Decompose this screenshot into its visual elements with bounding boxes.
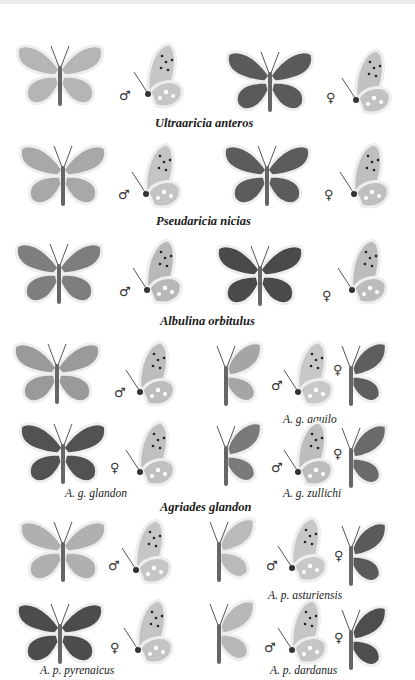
butterfly-asturiensis-male-upperside (208, 516, 263, 588)
species-label-pseudaricia-nicias: Pseudaricia nicias (156, 214, 251, 229)
butterfly-male-upperside (18, 140, 113, 212)
butterfly-female-underside (118, 598, 178, 670)
butterfly-female-upperside (18, 418, 108, 486)
butterfly-female-upperside (15, 598, 107, 668)
species-label-albulina-orbitulus: Albulina orbitulus (160, 314, 255, 329)
butterfly-aquilo-male-upperside (215, 340, 267, 412)
butterfly-male-underside (120, 340, 180, 412)
butterfly-male-upperside (18, 516, 110, 586)
butterfly-zullichi-male-upperside (215, 420, 267, 492)
subspecies-label-glandon: A. g. glandon (65, 487, 127, 499)
butterfly-asturiensis-female-upperside (340, 520, 392, 592)
butterfly-male-underside (127, 238, 187, 310)
female-symbol: ♀ (324, 187, 334, 202)
butterfly-male-upperside (12, 338, 112, 410)
female-symbol: ♀ (322, 288, 332, 303)
butterfly-male-underside (116, 518, 176, 590)
female-symbol: ♀ (110, 460, 120, 475)
species-label-agriades-glandon: Agriades glandon (160, 500, 251, 515)
butterfly-male-upperside (14, 238, 114, 312)
butterfly-male-upperside (15, 40, 110, 112)
butterfly-female-upperside (215, 240, 315, 314)
butterfly-aquilo-male-underside (278, 340, 338, 412)
butterfly-female-underside (120, 420, 180, 492)
butterfly-zullichi-female-upperside (340, 422, 392, 494)
species-label-ultraaricia-anteros: Ultraaricia anteros (155, 116, 253, 131)
butterfly-dardanus-male-underside (272, 598, 332, 670)
butterfly-female-upperside (225, 46, 320, 118)
subspecies-label-pyrenaicus: A. p. pyrenaicus (40, 664, 114, 676)
subspecies-label-zullichi: A. g. zullichi (283, 487, 341, 499)
page-top-edge (0, 0, 415, 4)
butterfly-dardanus-male-upperside (208, 598, 263, 670)
female-symbol: ♀ (326, 90, 336, 105)
butterfly-male-underside (126, 142, 186, 214)
butterfly-dardanus-female-upperside (340, 604, 392, 676)
butterfly-female-underside (334, 142, 394, 214)
butterfly-zullichi-male-underside (278, 420, 338, 492)
butterfly-female-underside (336, 48, 396, 120)
butterfly-female-upperside (222, 140, 317, 212)
butterfly-asturiensis-male-underside (272, 516, 332, 588)
subspecies-label-dardanus: A. p. dardanus (270, 664, 337, 676)
butterfly-aquilo-female-upperside (340, 340, 392, 412)
butterfly-female-underside (332, 238, 392, 310)
butterfly-male-underside (128, 42, 188, 114)
